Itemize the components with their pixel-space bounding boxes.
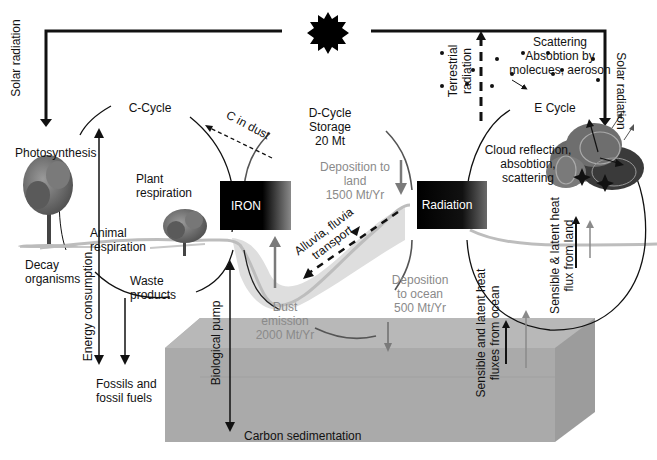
ocean-flux-label: Sensible and latent heat fluxes from oce… xyxy=(474,258,502,408)
land-flux-label: Sensible & latent heat flux from land xyxy=(548,188,576,323)
d-cycle-line1: D-Cycle xyxy=(300,106,360,120)
fossils-line2: fossil fuels xyxy=(96,391,157,405)
d-cycle-title: D-Cycle Storage 20 Mt xyxy=(300,106,360,148)
plant-respiration-line1: Plant xyxy=(136,172,192,186)
waste-line2: products xyxy=(130,288,176,302)
iron-box: IRON xyxy=(220,181,272,230)
dust-line3: 2000 Mt/Yr xyxy=(245,328,325,342)
animal-respiration-line1: Animal xyxy=(90,226,146,240)
deposition-ocean-label: Deposition to ocean 500 Mt/Yr xyxy=(385,273,455,315)
waste-products-label: Waste products xyxy=(130,274,176,302)
tree-icon-small xyxy=(163,209,207,256)
dep-ocean-line1: Deposition xyxy=(385,273,455,287)
dust-line2: emission xyxy=(245,314,325,328)
fossils-line1: Fossils and xyxy=(96,377,157,391)
scattering-line3: molecues, aeroson xyxy=(500,63,620,77)
e-cycle-title: E Cycle xyxy=(525,101,585,115)
dep-ocean-line3: 500 Mt/Yr xyxy=(385,301,455,315)
deposition-land-label: Deposition to land 1500 Mt/Yr xyxy=(310,160,400,202)
dep-ocean-line2: to ocean xyxy=(385,287,455,301)
plant-respiration-line2: respiration xyxy=(136,186,192,200)
carbon-sedimentation-label: Carbon sedimentation xyxy=(244,429,361,443)
decay-line1: Decay xyxy=(25,258,80,272)
scattering-line2: Absobtion by xyxy=(500,49,620,63)
plant-respiration-label: Plant respiration xyxy=(136,172,192,200)
land-flux-line1: Sensible & latent heat xyxy=(548,188,562,323)
iron-label: IRON xyxy=(231,199,261,213)
dust-emission-label: Dust emission 2000 Mt/Yr xyxy=(245,300,325,342)
cloud-line3: scattering xyxy=(480,171,576,185)
sun-icon xyxy=(307,12,349,54)
terrestrial-line1: Terrestrial xyxy=(446,45,460,98)
d-cycle-line3: 20 Mt xyxy=(300,134,360,148)
decay-organisms-label: Decay organisms xyxy=(25,258,80,286)
energy-consumption-label: Energy consumption xyxy=(81,239,95,374)
solar-radiation-left-label: Solar radiation xyxy=(9,3,23,113)
dust-line1: Dust xyxy=(245,300,325,314)
scattering-line1: Scattering xyxy=(500,35,620,49)
cloud-label: Cloud reflection, absobtion, scattering xyxy=(480,143,576,185)
c-cycle-title: C-Cycle xyxy=(120,101,180,115)
terrestrial-radiation-label: Terrestrial xyxy=(447,41,460,101)
biogeochemical-cycles-diagram: IRON Radiation Solar radiation Solar rad… xyxy=(0,0,657,460)
animal-respiration-label: Animal respiration xyxy=(90,226,146,254)
d-cycle-line2: Storage xyxy=(300,120,360,134)
cloud-line1: Cloud reflection, xyxy=(480,143,576,157)
land-flux-line2: flux from land xyxy=(562,188,576,323)
animal-respiration-line2: respiration xyxy=(90,240,146,254)
radiation-label: Radiation xyxy=(422,198,473,212)
ocean-flux-line1: Sensible and latent heat xyxy=(474,258,488,408)
terrestrial-line2: radiation xyxy=(460,48,474,94)
fossils-label: Fossils and fossil fuels xyxy=(96,377,157,405)
dep-land-line2: land xyxy=(310,174,400,188)
terrestrial-radiation-label-2: radiation xyxy=(461,41,474,101)
tree-icon-large xyxy=(18,155,78,248)
decay-line2: organisms xyxy=(25,272,80,286)
scattering-label: Scattering Absobtion by molecues, aeroso… xyxy=(500,35,620,77)
photosynthesis-label: Photosynthesis xyxy=(15,146,96,160)
biological-pump-label: Biological pump xyxy=(209,298,223,388)
waste-line1: Waste xyxy=(130,274,176,288)
ocean-flux-line2: fluxes from ocean xyxy=(488,258,502,408)
cloud-line2: absobtion, xyxy=(480,157,576,171)
radiation-box: Radiation xyxy=(417,181,477,229)
dep-land-line1: Deposition to xyxy=(310,160,400,174)
